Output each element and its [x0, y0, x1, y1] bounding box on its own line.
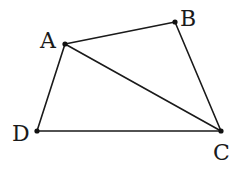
- vertex-labels: A B C D: [12, 6, 230, 165]
- segment-ab: [65, 22, 175, 44]
- segment-bc: [175, 22, 221, 131]
- segment-da: [37, 44, 65, 131]
- label-c: C: [213, 140, 230, 165]
- point-c: [218, 128, 223, 133]
- label-a: A: [39, 28, 57, 53]
- segment-ac: [65, 44, 221, 131]
- point-b: [172, 19, 177, 24]
- point-d: [34, 128, 39, 133]
- quadrilateral-diagram: A B C D: [0, 0, 241, 171]
- label-b: B: [180, 6, 196, 31]
- segments: [37, 22, 221, 131]
- point-a: [62, 41, 67, 46]
- label-d: D: [12, 121, 30, 146]
